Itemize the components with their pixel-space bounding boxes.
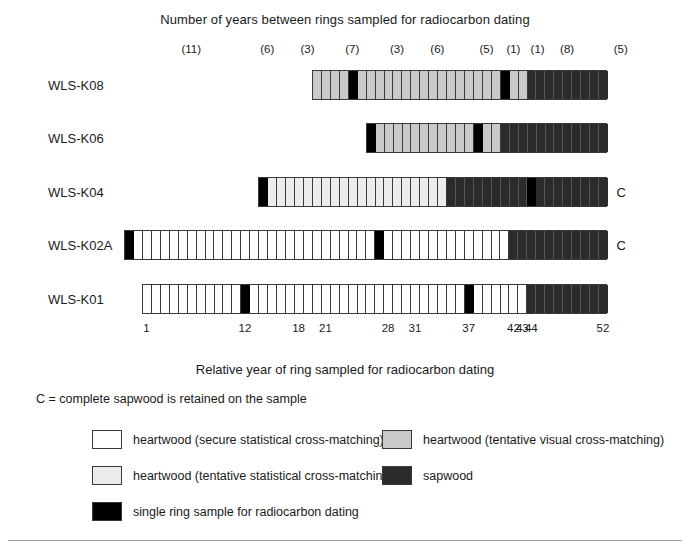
ring-cell-tent-vis (492, 71, 501, 99)
ring-cell-secure (331, 231, 340, 259)
ring-cell-sample (465, 285, 474, 313)
row-label-wls-k04: WLS-K04 (48, 185, 104, 200)
ring-cell-sapwood (509, 231, 518, 259)
ring-cell-sapwood (510, 178, 519, 206)
ring-cell-secure (366, 285, 375, 313)
interval-label-1: (6) (250, 43, 284, 55)
ring-cell-secure (313, 231, 322, 259)
ring-cell-secure (501, 285, 510, 313)
legend-swatch-tentative-statistical-icon (92, 466, 122, 485)
ring-cell-secure (286, 285, 295, 313)
ring-cell-sapwood (563, 231, 572, 259)
ring-cell-secure (340, 231, 349, 259)
ring-cell-sapwood (545, 178, 554, 206)
axis-tick-28: 28 (373, 322, 403, 334)
ring-cell-tent-vis (313, 71, 322, 99)
ring-cell-sapwood (483, 178, 492, 206)
ring-cell-tent-stat (268, 178, 277, 206)
ring-cell-secure (232, 231, 241, 259)
legend-label-sapwood: sapwood (423, 469, 473, 483)
ring-cell-tent-vis (322, 71, 331, 99)
ring-cell-secure (447, 231, 456, 259)
ring-cell-secure (206, 285, 215, 313)
legend-label-tentative-statistical: heartwood (tentative statistical cross-m… (133, 469, 394, 483)
ring-cell-sapwood (554, 71, 563, 99)
ring-cell-secure (143, 231, 152, 259)
ring-cell-sapwood (554, 285, 563, 313)
ring-cell-tent-vis (492, 124, 501, 152)
sample-bar-wls-k04 (258, 177, 607, 207)
ring-cell-tent-stat (358, 178, 367, 206)
ring-cell-secure (188, 231, 197, 259)
ring-cell-tent-vis (367, 71, 376, 99)
ring-cell-secure (420, 285, 429, 313)
ring-cell-secure (474, 285, 483, 313)
ring-cell-sample (259, 178, 268, 206)
ring-cell-tent-stat (331, 178, 340, 206)
ring-cell-secure (170, 231, 179, 259)
ring-cell-sapwood (599, 231, 608, 259)
ring-cell-secure (483, 231, 492, 259)
ring-cell-secure (268, 285, 277, 313)
interval-label-10: (5) (604, 43, 638, 55)
ring-cell-secure (295, 285, 304, 313)
ring-cell-secure (465, 231, 474, 259)
ring-cell-sapwood (581, 124, 590, 152)
ring-cell-sapwood (527, 285, 536, 313)
ring-cell-secure (411, 231, 420, 259)
ring-cell-tent-vis (420, 71, 429, 99)
axis-tick-18: 18 (284, 322, 314, 334)
ring-cell-secure (411, 285, 420, 313)
ring-cell-sapwood (581, 178, 590, 206)
legend-label-single-ring-sample: single ring sample for radiocarbon datin… (133, 505, 359, 519)
ring-cell-sapwood (456, 178, 465, 206)
ring-cell-secure (206, 231, 215, 259)
ring-cell-secure (393, 231, 402, 259)
ring-cell-secure (331, 285, 340, 313)
legend-item-tentative-statistical: heartwood (tentative statistical cross-m… (92, 466, 394, 485)
ring-cell-secure (143, 285, 152, 313)
ring-cell-sapwood (536, 178, 545, 206)
ring-cell-secure (170, 285, 179, 313)
ring-cell-sapwood (581, 285, 590, 313)
ring-cell-sapwood (554, 178, 563, 206)
row-label-wls-k06: WLS-K06 (48, 131, 104, 146)
legend-swatch-sapwood-icon (382, 466, 412, 485)
ring-cell-tent-vis (411, 71, 420, 99)
ring-cell-tent-vis (456, 71, 465, 99)
ring-cell-secure (402, 231, 411, 259)
ring-cell-secure (313, 285, 322, 313)
ring-cell-sapwood (447, 178, 456, 206)
ring-cell-secure (438, 231, 447, 259)
ring-cell-secure (456, 231, 465, 259)
ring-cell-sample (527, 178, 536, 206)
ring-cell-tent-vis (474, 71, 483, 99)
ring-cell-sapwood (599, 124, 608, 152)
row-label-wls-k02a: WLS-K02A (48, 238, 112, 253)
ring-cell-tent-stat (277, 178, 286, 206)
ring-cell-sapwood (501, 178, 510, 206)
ring-cell-secure (483, 285, 492, 313)
legend-label-secure: heartwood (secure statistical cross-matc… (133, 433, 384, 447)
ring-cell-secure (241, 231, 250, 259)
ring-cell-sapwood (590, 285, 599, 313)
ring-cell-secure (161, 285, 170, 313)
ring-cell-secure (214, 231, 223, 259)
ring-cell-sample (474, 124, 483, 152)
ring-cell-sapwood (590, 71, 599, 99)
ring-cell-sapwood (554, 124, 563, 152)
ring-cell-secure (277, 285, 286, 313)
ring-cell-sapwood (528, 124, 537, 152)
ring-cell-sapwood (563, 71, 572, 99)
ring-cell-sapwood (465, 178, 474, 206)
ring-cell-sample (367, 124, 376, 152)
ring-cell-sapwood (474, 178, 483, 206)
complete-sapwood-marker-wls-k02a: C (616, 238, 625, 253)
legend-label-tentative-visual: heartwood (tentative visual cross-matchi… (423, 433, 664, 447)
ring-cell-secure (286, 231, 295, 259)
ring-cell-secure (429, 231, 438, 259)
ring-cell-secure (268, 231, 277, 259)
ring-cell-tent-stat (349, 178, 358, 206)
ring-cell-secure (179, 231, 188, 259)
ring-cell-secure (197, 231, 206, 259)
